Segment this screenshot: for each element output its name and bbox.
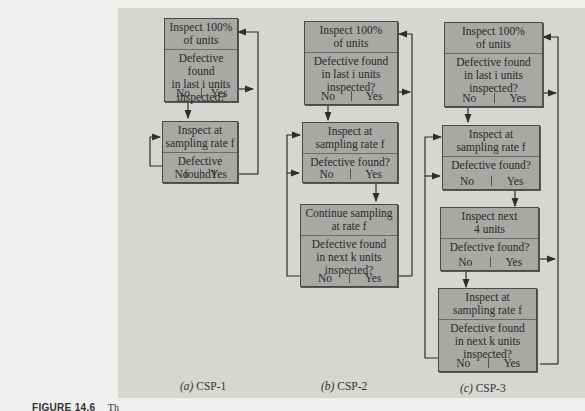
csp3-final-sampling-box: Inspect at sampling rate f Defective fou…: [438, 288, 537, 372]
no-label: No: [443, 174, 491, 188]
no-yes-branch: No Yes: [163, 167, 237, 181]
yes-label: Yes: [349, 271, 397, 285]
no-yes-branch: No Yes: [303, 167, 397, 181]
yes-label: Yes: [490, 255, 539, 269]
box-header: Inspect 100% of units: [165, 19, 237, 50]
no-label: No: [445, 91, 494, 105]
box-header: Inspect at sampling rate f: [163, 122, 237, 153]
no-label: No: [163, 167, 200, 181]
box-question: Defective found in next k units inspecte…: [439, 320, 536, 361]
no-yes-branch: No Yes: [165, 86, 237, 100]
no-label: No: [301, 271, 349, 285]
no-yes-branch: No Yes: [301, 271, 397, 285]
yes-label: Yes: [350, 167, 397, 181]
no-label: No: [305, 89, 351, 103]
box-question: Defective found in last i units inspecte…: [305, 53, 397, 94]
no-yes-branch: No Yes: [441, 255, 538, 269]
no-yes-branch: No Yes: [305, 89, 397, 103]
no-label: No: [441, 255, 490, 269]
figure-label: FIGURE 14.6 Th: [32, 402, 119, 411]
box-header: Inspect 100% of units: [305, 22, 397, 53]
csp2-continue-sampling-box: Continue sampling at rate f Defective fo…: [300, 204, 398, 287]
csp3-inspect-100-box: Inspect 100% of units Defective found in…: [444, 22, 543, 107]
csp3-sampling-box: Inspect at sampling rate f Defective fou…: [442, 125, 540, 190]
no-yes-branch: No Yes: [439, 356, 536, 370]
yes-label: Yes: [200, 167, 237, 181]
no-yes-branch: No Yes: [445, 91, 542, 105]
box-header: Inspect next 4 units: [441, 208, 538, 239]
box-header: Inspect at sampling rate f: [303, 123, 397, 154]
csp2-sampling-box: Inspect at sampling rate f Defective fou…: [302, 122, 398, 183]
no-yes-branch: No Yes: [443, 174, 539, 188]
caption-csp1: (a) CSP-1: [180, 380, 226, 392]
csp3-inspect-next-4-box: Inspect next 4 units Defective found? No…: [440, 207, 539, 271]
caption-csp3: (c) CSP-3: [460, 382, 506, 394]
no-label: No: [165, 86, 201, 100]
yes-label: Yes: [494, 91, 543, 105]
box-header: Inspect at sampling rate f: [443, 126, 539, 157]
box-header: Inspect at sampling rate f: [439, 289, 536, 320]
box-header: Continue sampling at rate f: [301, 205, 397, 236]
caption-csp2: (b) CSP-2: [321, 380, 367, 392]
no-label: No: [439, 356, 488, 370]
box-question: Defective found?: [443, 157, 539, 172]
box-header: Inspect 100% of units: [445, 23, 542, 54]
csp2-inspect-100-box: Inspect 100% of units Defective found in…: [304, 21, 398, 105]
box-question: Defective found in last i units inspecte…: [445, 54, 542, 95]
yes-label: Yes: [201, 86, 237, 100]
csp1-inspect-100-box: Inspect 100% of units Defective found in…: [164, 18, 238, 102]
csp1-sampling-box: Inspect at sampling rate f Defective fou…: [162, 121, 238, 183]
yes-label: Yes: [491, 174, 539, 188]
yes-label: Yes: [488, 356, 537, 370]
yes-label: Yes: [351, 89, 397, 103]
no-label: No: [303, 167, 350, 181]
box-question: Defective found?: [441, 239, 538, 254]
